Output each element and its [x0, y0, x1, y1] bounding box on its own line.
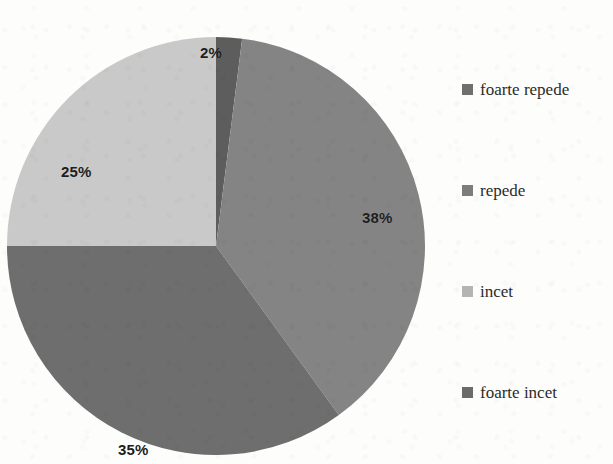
pie-slice-value-label-incet: 35% [118, 441, 149, 458]
legend-item-foarte-repede: foarte repede [462, 78, 612, 100]
square-swatch-icon [462, 387, 473, 398]
legend-item-incet: incet [462, 280, 612, 302]
pie-chart-plot-area: 2% 38% 35% 25% [7, 37, 425, 455]
legend-item-foarte-incet: foarte incet [462, 381, 612, 403]
square-swatch-icon [462, 185, 473, 196]
legend-item-label: repede [480, 182, 525, 199]
pie-slice-value-label-repede: 38% [362, 209, 393, 226]
chart-legend: foarte repede repede incet foarte incet [462, 78, 612, 403]
pie-chart-figure: 2% 38% 35% 25% foarte repede repede ince… [0, 0, 613, 464]
square-swatch-icon [462, 84, 473, 95]
square-swatch-icon [462, 286, 473, 297]
pie-chart-svg [7, 37, 425, 455]
legend-item-label: foarte incet [480, 384, 557, 401]
pie-slice-value-label-foarte-repede: 2% [200, 44, 222, 61]
pie-slice-value-label-foarte-incet: 25% [61, 163, 92, 180]
pie-slice-foarte-incet [7, 37, 216, 246]
legend-item-label: foarte repede [480, 81, 569, 98]
legend-item-label: incet [480, 283, 513, 300]
legend-item-repede: repede [462, 179, 612, 201]
pie-slice-group [7, 37, 425, 455]
